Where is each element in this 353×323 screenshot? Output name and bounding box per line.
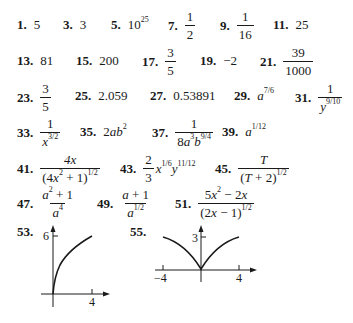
- problem-number: 27.: [150, 88, 166, 104]
- answer-41: 41. 4x (4x2 + 1)1/2: [17, 153, 100, 184]
- fraction: 12: [185, 10, 196, 41]
- fraction: a + 1 a1/2: [120, 188, 151, 219]
- answer-11: 11. 25: [273, 17, 309, 33]
- answer-25: 25. 2.059: [75, 88, 128, 104]
- problem-number: 5.: [111, 17, 121, 33]
- answer-43: 43. 23 x1/6y11/12: [120, 153, 195, 184]
- answer-33: 33. 1 x3/2: [17, 117, 60, 148]
- problem-number: 21.: [260, 54, 276, 70]
- answer-value: x1/6y11/12: [156, 161, 196, 177]
- answer-7: 7. 12: [168, 10, 195, 41]
- problem-number: 51.: [175, 196, 191, 212]
- answer-37: 37. 1 8a3b9/4: [152, 117, 213, 148]
- problem-number: 31.: [295, 90, 311, 106]
- problem-number: 49.: [97, 196, 113, 212]
- problem-number: 37.: [152, 125, 168, 141]
- answer-19: 19. −2: [200, 53, 237, 69]
- problem-number: 39.: [222, 124, 238, 140]
- answer-9: 9. 116: [220, 10, 254, 41]
- problem-number: 43.: [120, 161, 136, 177]
- answer-5: 5. 1025: [111, 17, 149, 33]
- problem-number: 19.: [200, 53, 216, 69]
- y-tick-label: 6: [43, 229, 49, 243]
- graph-55: 3 −4 4: [150, 225, 260, 285]
- answer-49: 49. a + 1 a1/2: [97, 188, 151, 219]
- problem-number: 13.: [17, 53, 33, 69]
- fraction: 5x2 − 2x (2x − 1)1/2: [198, 188, 254, 219]
- fraction: 23: [143, 153, 154, 184]
- x-tick-left-label: −4: [154, 271, 167, 285]
- answer-value: a1/12: [245, 124, 266, 140]
- problem-number: 45.: [215, 161, 231, 177]
- answer-17: 17. 35: [142, 46, 176, 77]
- fraction: 35: [165, 46, 176, 77]
- x-tick-right-label: 4: [236, 271, 242, 285]
- problem-number: 25.: [75, 88, 91, 104]
- y-tick-label: 3: [192, 231, 198, 245]
- problem-number: 11.: [273, 17, 289, 33]
- answer-value: 81: [40, 53, 53, 69]
- answer-value: 3: [80, 17, 87, 33]
- problem-number: 1.: [17, 17, 27, 33]
- fraction: 1 8a3b9/4: [175, 117, 213, 148]
- fraction: 116: [237, 10, 254, 41]
- answer-value: 25: [296, 17, 309, 33]
- x-tick-label: 4: [89, 295, 95, 309]
- answer-53-label: 53.: [17, 224, 40, 240]
- answer-1: 1. 5: [17, 17, 40, 33]
- problem-number: 47.: [17, 196, 33, 212]
- answer-45: 45. T (T + 2)1/2: [215, 153, 289, 184]
- answer-23: 23. 35: [17, 82, 51, 113]
- sqrt-curve-graph: 6 4: [38, 225, 113, 310]
- problem-number: 29.: [234, 88, 250, 104]
- answer-value: −2: [223, 53, 237, 69]
- problem-number: 33.: [17, 125, 33, 141]
- problem-number: 35.: [80, 124, 96, 140]
- answer-3: 3. 3: [63, 17, 86, 33]
- fraction: 1 x3/2: [40, 117, 60, 148]
- abs-sqrt-curve-graph: 3 −4 4: [150, 225, 260, 285]
- answer-value: 200: [99, 53, 119, 69]
- answer-value: 1025: [128, 17, 149, 33]
- answer-value: 2.059: [98, 88, 127, 104]
- answer-13: 13. 81: [17, 53, 53, 69]
- fraction: 391000: [283, 46, 313, 77]
- problem-number: 3.: [63, 17, 73, 33]
- answer-27: 27. 0.53891: [150, 88, 216, 104]
- answer-39: 39. a1/12: [222, 124, 266, 140]
- problem-number: 15.: [76, 53, 92, 69]
- answer-47: 47. a2 + 1 a4: [17, 188, 75, 219]
- problem-number: 7.: [168, 18, 178, 34]
- graph-53: 6 4: [38, 225, 113, 310]
- problem-number: 23.: [17, 90, 33, 106]
- problem-number: 55.: [130, 224, 146, 240]
- answer-value: 2ab2: [103, 124, 127, 140]
- problem-number: 9.: [220, 18, 230, 34]
- answer-51: 51. 5x2 − 2x (2x − 1)1/2: [175, 188, 254, 219]
- answer-35: 35. 2ab2: [80, 124, 127, 140]
- problem-number: 17.: [142, 54, 158, 70]
- answer-value: 5: [34, 17, 41, 33]
- answer-value: a7/6: [257, 88, 274, 104]
- fraction: T (T + 2)1/2: [238, 153, 288, 184]
- answer-15: 15. 200: [76, 53, 119, 69]
- answer-29: 29. a7/6: [234, 88, 274, 104]
- answer-21: 21. 391000: [260, 46, 313, 77]
- fraction: 35: [40, 82, 51, 113]
- problem-number: 41.: [17, 161, 33, 177]
- fraction: a2 + 1 a4: [40, 188, 75, 219]
- answer-value: 0.53891: [173, 88, 215, 104]
- fraction: 4x (4x2 + 1)1/2: [40, 153, 100, 184]
- fraction: 1 y9/10: [318, 82, 342, 113]
- problem-number: 53.: [17, 224, 33, 240]
- answer-31: 31. 1 y9/10: [295, 82, 342, 113]
